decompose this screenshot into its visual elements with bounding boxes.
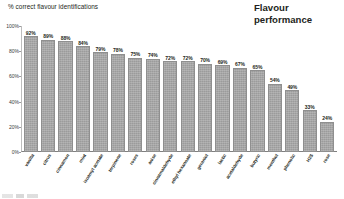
category-slot: rose	[318, 152, 335, 198]
x-axis-category-label: mint	[78, 153, 87, 164]
bar-slot: 72%	[162, 26, 179, 152]
bar-value-label: 54%	[270, 77, 280, 83]
bar-slot: 74%	[144, 26, 161, 152]
y-axis-tick-label: 20%	[9, 124, 19, 130]
bar-slot: 88%	[57, 26, 74, 152]
page-footer-artifact	[2, 194, 38, 198]
category-slot: menthol	[266, 152, 283, 198]
category-slot: isoamyl acetate	[92, 152, 109, 198]
bar-value-label: 67%	[235, 61, 245, 67]
y-axis-tick-label: 60%	[9, 73, 19, 79]
x-axis-category-labels: vanillacitruscinnamonmintisoamyl acetate…	[21, 152, 337, 198]
category-slot: ethyl hexanoate	[179, 152, 196, 198]
bar[interactable]	[163, 61, 177, 152]
bar-value-label: 33%	[305, 104, 315, 110]
bar-value-label: 78%	[113, 47, 123, 53]
bar-value-label: 79%	[96, 46, 106, 52]
x-axis-category-label: anise	[147, 153, 157, 165]
bar-slot: 79%	[92, 26, 109, 152]
x-axis-category-label: cinnamon	[54, 153, 70, 174]
chart-page: % correct flavour identifications Flavou…	[0, 0, 344, 199]
y-axis-tick-label: 0%	[12, 149, 19, 155]
bar-slot: 49%	[284, 26, 301, 152]
y-axis-title: % correct flavour identifications	[8, 3, 98, 10]
y-axis-tick-label: 80%	[9, 48, 19, 54]
bar[interactable]	[111, 54, 125, 152]
bar[interactable]	[128, 58, 142, 153]
x-axis-category-label: butyric	[249, 153, 261, 168]
panel-title: Flavour performance	[254, 2, 340, 26]
bar-slot: 92%	[22, 26, 39, 152]
bar-value-label: 75%	[130, 51, 140, 57]
x-axis-category-label: rose	[322, 153, 331, 164]
x-axis-category-label: H2S	[305, 153, 314, 163]
category-slot: terpinene	[109, 152, 126, 198]
panel-title-line-2: performance	[254, 14, 340, 26]
bar-value-label: 69%	[218, 59, 228, 65]
bar[interactable]	[41, 40, 55, 152]
category-slot: acetaldehyde	[231, 152, 248, 198]
bar-slot: 65%	[249, 26, 266, 152]
bar-slot: 72%	[179, 26, 196, 152]
category-slot: cinnamon	[57, 152, 74, 198]
bar-series: 92%89%88%84%79%78%75%74%72%72%70%69%67%6…	[21, 26, 337, 152]
x-axis-category-label: terpinene	[107, 153, 122, 173]
panel-title-line-1: Flavour	[254, 2, 340, 14]
category-slot: geraniol	[196, 152, 213, 198]
bar-value-label: 74%	[148, 52, 158, 58]
bar-value-label: 92%	[26, 30, 36, 36]
bar-slot: 78%	[109, 26, 126, 152]
plot-area: 100%80%60%40%20%0% 92%89%88%84%79%78%75%…	[21, 26, 337, 152]
bar-slot: 84%	[74, 26, 91, 152]
bar-slot: 75%	[127, 26, 144, 152]
bar[interactable]	[24, 36, 38, 152]
category-slot: H2S	[301, 152, 318, 198]
bar[interactable]	[250, 70, 264, 152]
bar-slot: 70%	[196, 26, 213, 152]
bar-value-label: 72%	[183, 55, 193, 61]
bar-slot: 24%	[318, 26, 335, 152]
bar-slot: 67%	[231, 26, 248, 152]
bar[interactable]	[268, 84, 282, 152]
bar-value-label: 70%	[200, 57, 210, 63]
x-axis-category-label: citrus	[42, 153, 53, 166]
bar-slot: 69%	[214, 26, 231, 152]
bar-value-label: 24%	[322, 115, 332, 121]
category-slot: roses	[127, 152, 144, 198]
bar-value-label: 84%	[78, 40, 88, 46]
bar-value-label: 65%	[253, 64, 263, 70]
bar-slot: 89%	[39, 26, 56, 152]
bar[interactable]	[233, 68, 247, 152]
bar-value-label: 72%	[165, 55, 175, 61]
bar[interactable]	[58, 41, 72, 152]
x-axis-category-label: phenolic	[282, 153, 296, 171]
bar[interactable]	[93, 52, 107, 152]
bar[interactable]	[303, 110, 317, 152]
bar[interactable]	[181, 61, 195, 152]
bar[interactable]	[285, 90, 299, 152]
category-slot: vanilla	[22, 152, 39, 198]
x-axis-category-label: vanilla	[23, 153, 35, 167]
category-slot: citrus	[39, 152, 56, 198]
bar-slot: 54%	[266, 26, 283, 152]
bar[interactable]	[76, 46, 90, 152]
bar-value-label: 89%	[43, 33, 53, 39]
x-axis-category-label: geraniol	[196, 153, 209, 170]
category-slot: phenolic	[284, 152, 301, 198]
y-axis-tick-label: 100%	[6, 23, 19, 29]
x-axis-category-label: menthol	[266, 153, 280, 171]
bar[interactable]	[198, 64, 212, 152]
y-axis-tick-label: 40%	[9, 99, 19, 105]
bar-value-label: 88%	[61, 35, 71, 41]
bar-value-label: 49%	[287, 84, 297, 90]
bar[interactable]	[320, 122, 334, 152]
category-slot: butyric	[249, 152, 266, 198]
bar[interactable]	[215, 65, 229, 152]
bar-slot: 33%	[301, 26, 318, 152]
bar[interactable]	[146, 59, 160, 152]
x-axis-category-label: roses	[129, 153, 140, 166]
x-axis-category-label: lactic	[216, 153, 226, 165]
